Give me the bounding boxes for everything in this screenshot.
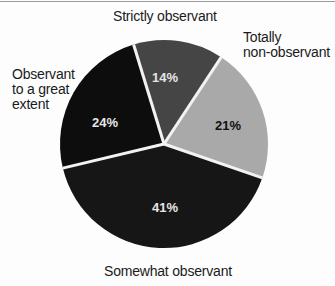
label-observant-great-extent: Observant to a great extent (12, 67, 75, 112)
pct-somewhat-observant: 41% (152, 200, 178, 215)
label-line: Observant (12, 67, 75, 82)
label-somewhat-observant: Somewhat observant (104, 264, 232, 279)
pct-strictly-observant: 14% (152, 70, 178, 85)
chart-figure: Strictly observant Totally non-observant… (0, 0, 335, 286)
label-strictly-observant: Strictly observant (113, 9, 217, 24)
pct-totally-non-observant: 21% (215, 118, 241, 133)
label-totally-non-observant: Totally non-observant (243, 30, 330, 60)
label-line: Totally (243, 30, 330, 45)
label-line: non-observant (243, 45, 330, 60)
label-line: to a great (12, 82, 75, 97)
label-line: extent (12, 97, 75, 112)
pct-observant-great-extent: 24% (92, 115, 118, 130)
